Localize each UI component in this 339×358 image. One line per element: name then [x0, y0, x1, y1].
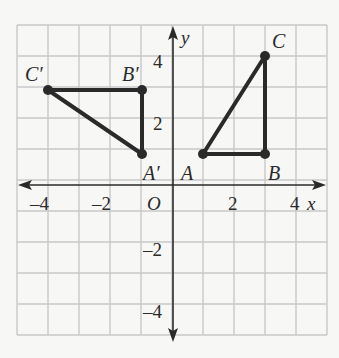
vertex-c-label: C [272, 30, 286, 52]
vertex-b [260, 149, 270, 159]
x-axis-label: x [306, 193, 316, 214]
vertex-c-prime-label: C′ [25, 63, 43, 85]
x-tick-label: 2 [228, 193, 238, 214]
vertex-c [260, 51, 270, 61]
x-tick-label: –2 [91, 193, 111, 214]
vertex-a-label: A [179, 162, 194, 184]
vertex-b-prime-label: B′ [122, 63, 139, 85]
vertex-a-prime-label: A′ [141, 162, 160, 184]
vertex-b-label: B [268, 162, 280, 184]
x-tick-label: –4 [29, 193, 50, 214]
vertex-a [198, 149, 208, 159]
origin-label: O [147, 193, 161, 214]
x-tick-label: 4 [290, 193, 300, 214]
vertex-b-prime [137, 85, 147, 95]
y-tick-label: –2 [142, 239, 162, 260]
y-tick-label: –4 [142, 301, 163, 322]
triangle-a-prime-b-prime-c-prime [48, 90, 142, 154]
vertex-a-prime [137, 149, 147, 159]
vertex-c-prime [43, 85, 53, 95]
y-tick-label: 2 [153, 113, 163, 134]
coordinate-plane: y x O –4 –2 2 4 4 2 –2 –4 A B C A′ B′ C′ [0, 0, 339, 358]
grid [17, 25, 327, 335]
y-axis-label: y [179, 27, 190, 48]
y-tick-label: 4 [153, 51, 163, 72]
